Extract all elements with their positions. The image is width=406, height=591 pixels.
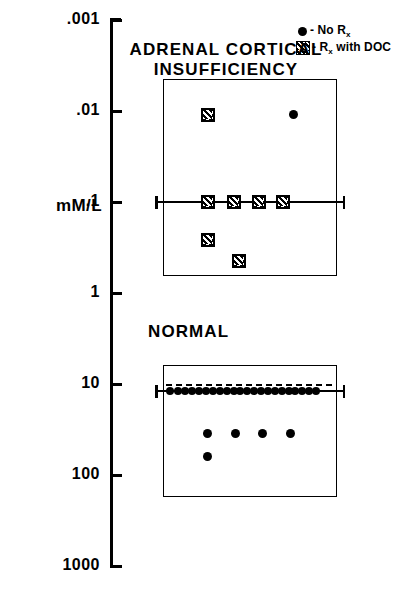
panel-box-adrenal-cortical-insufficiency (163, 79, 337, 276)
y-axis-tick-label: .001 (67, 11, 100, 27)
filled-circle-icon (298, 27, 307, 36)
y-axis-tick-label: 100 (72, 466, 100, 482)
data-point-hatched-square (252, 195, 266, 209)
y-axis-tick-label: .01 (76, 102, 100, 118)
y-axis-tick (110, 292, 122, 295)
figure-canvas: .001.01.11101001000 mM/L - No Rx - Rx wi… (0, 0, 406, 591)
y-axis-tick-label: 1 (91, 284, 100, 300)
data-point-hatched-square (227, 195, 241, 209)
y-axis-tick (110, 565, 122, 568)
data-point-hatched-square (232, 254, 246, 268)
reference-dashed-line (166, 384, 332, 386)
y-axis-tick (110, 110, 122, 113)
mean-line-cap-left (155, 385, 158, 398)
y-axis-tick (110, 474, 122, 477)
data-point-hatched-square (201, 195, 215, 209)
group-title-adrenal-cortical-insufficiency: ADRENAL CORTICAL INSUFFICIENCY (118, 40, 334, 80)
y-axis-tick (110, 383, 122, 386)
data-point-hatched-square (201, 108, 215, 122)
group-title-normal: NORMAL (148, 322, 229, 342)
mean-line-cap-left (155, 196, 158, 209)
y-axis-tick-label: 1000 (62, 557, 100, 573)
y-axis-unit-label: mM/L (6, 196, 102, 216)
y-axis-tick-label: 10 (81, 375, 100, 391)
y-axis-tick (110, 201, 122, 204)
mean-line (155, 201, 345, 204)
legend-label-no-rx: - No Rx (310, 23, 351, 39)
data-point-hatched-square (201, 233, 215, 247)
mean-line-cap-right (343, 196, 346, 209)
y-axis-tick (110, 19, 122, 22)
data-point-filled-circle (231, 429, 240, 438)
legend-item-no-rx: - No Rx (296, 22, 404, 39)
data-point-filled-circle (203, 452, 212, 461)
mean-line-cap-right (343, 385, 346, 398)
data-point-hatched-square (276, 195, 290, 209)
data-point-filled-circle (286, 429, 295, 438)
